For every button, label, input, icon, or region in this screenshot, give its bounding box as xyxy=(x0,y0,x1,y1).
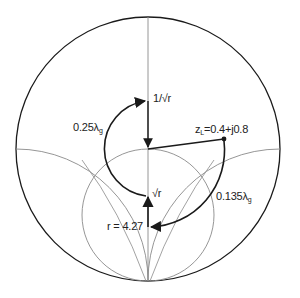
r-value-label: r = 4.27 xyxy=(107,220,143,232)
smith-chart xyxy=(0,0,300,298)
line-length-label: 0.135λg xyxy=(216,190,252,203)
line-length-arc xyxy=(151,141,225,227)
sqrt-r-label: √r xyxy=(152,187,161,199)
quarter-wave-label: 0.25λg xyxy=(73,121,103,134)
inner-arc-right xyxy=(150,160,214,281)
inv-sqrt-r-label: 1/√r xyxy=(153,92,171,104)
load-point xyxy=(222,137,227,142)
load-radius xyxy=(148,139,224,149)
quarter-wave-arc xyxy=(104,101,146,196)
load-impedance-label: zL=0.4+j0.8 xyxy=(195,123,248,136)
